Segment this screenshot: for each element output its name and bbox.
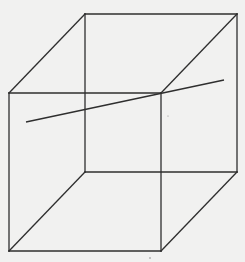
- cube-diagram: [0, 0, 245, 262]
- paper-speck: [167, 115, 168, 116]
- top-right-connector: [161, 14, 237, 93]
- top-left-connector: [9, 14, 85, 93]
- transversal-line: [26, 80, 224, 122]
- bottom-right-connector: [161, 172, 237, 251]
- cube-edges: [9, 14, 237, 251]
- bottom-left-connector: [9, 172, 85, 251]
- paper-speck: [149, 257, 151, 259]
